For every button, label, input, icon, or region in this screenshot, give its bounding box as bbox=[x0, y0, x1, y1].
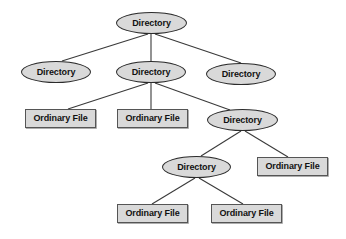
node-label: Directory bbox=[37, 68, 76, 77]
directory-node-n7[interactable]: Directory bbox=[207, 109, 278, 131]
ordinary-file-node-n9[interactable]: Ordinary File bbox=[257, 157, 328, 176]
tree-edge bbox=[201, 131, 241, 156]
node-label: Directory bbox=[223, 116, 262, 125]
node-label: Directory bbox=[222, 70, 261, 79]
ordinary-file-node-n11[interactable]: Ordinary File bbox=[211, 204, 282, 223]
ordinary-file-node-n10[interactable]: Ordinary File bbox=[117, 204, 188, 223]
node-label: Directory bbox=[177, 163, 216, 172]
file-system-tree-diagram: DirectoryDirectoryDirectoryDirectoryOrdi… bbox=[0, 0, 346, 239]
node-label: Ordinary File bbox=[265, 162, 319, 171]
tree-edge bbox=[152, 178, 195, 204]
tree-edge bbox=[62, 34, 148, 61]
node-label: Directory bbox=[132, 19, 171, 28]
ordinary-file-node-n5[interactable]: Ordinary File bbox=[25, 109, 96, 128]
node-label: Ordinary File bbox=[219, 209, 273, 218]
node-label: Ordinary File bbox=[33, 114, 87, 123]
tree-edge bbox=[245, 131, 288, 157]
directory-node-n8[interactable]: Directory bbox=[162, 156, 231, 178]
node-label: Ordinary File bbox=[125, 114, 179, 123]
node-label: Directory bbox=[132, 68, 171, 77]
ordinary-file-node-n6[interactable]: Ordinary File bbox=[117, 109, 188, 128]
tree-edge bbox=[68, 83, 148, 109]
directory-node-n3[interactable]: Directory bbox=[116, 61, 186, 83]
tree-edge bbox=[155, 83, 230, 110]
directory-node-n4[interactable]: Directory bbox=[206, 63, 276, 85]
node-label: Ordinary File bbox=[125, 209, 179, 218]
directory-node-n1[interactable]: Directory bbox=[116, 12, 187, 34]
tree-edge bbox=[199, 178, 243, 204]
directory-node-n2[interactable]: Directory bbox=[21, 61, 91, 83]
tree-edge bbox=[155, 34, 241, 63]
